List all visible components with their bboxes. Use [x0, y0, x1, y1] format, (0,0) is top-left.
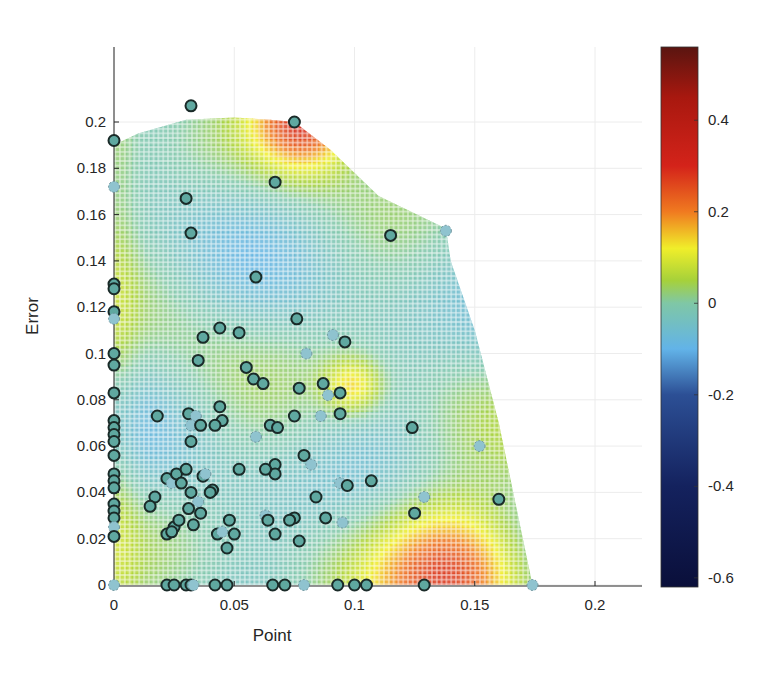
chart-figure: 00.050.10.150.200.020.040.060.080.10.120… — [0, 0, 773, 676]
colorbar-bar — [661, 47, 698, 587]
data-point — [440, 225, 451, 236]
data-point — [234, 327, 245, 338]
data-point — [262, 515, 273, 526]
data-point — [527, 580, 538, 591]
data-point — [210, 580, 221, 591]
data-point — [109, 387, 120, 398]
data-point — [291, 313, 302, 324]
data-point — [186, 436, 197, 447]
data-point — [361, 580, 372, 591]
data-point — [337, 517, 348, 528]
data-point — [241, 362, 252, 373]
data-point — [294, 536, 305, 547]
data-point — [173, 515, 184, 526]
data-point — [250, 431, 261, 442]
colorbar-tick-label: -0.4 — [708, 477, 734, 494]
x-tick-label: 0.1 — [344, 596, 365, 613]
colorbar-tick-label: 0 — [708, 294, 716, 311]
data-point — [152, 411, 163, 422]
data-point — [224, 515, 235, 526]
data-point — [250, 272, 261, 283]
data-point — [222, 543, 233, 554]
data-point — [186, 487, 197, 498]
data-point — [260, 464, 271, 475]
colorbar: 0.40.20-0.2-0.4-0.6 — [661, 47, 734, 587]
data-point — [109, 135, 120, 146]
data-point — [214, 401, 225, 412]
data-point — [169, 580, 180, 591]
data-point — [289, 117, 300, 128]
colorbar-tick-label: -0.6 — [708, 569, 734, 586]
data-point — [299, 450, 310, 461]
y-tick-label: 0 — [98, 576, 106, 593]
data-point — [193, 496, 204, 507]
data-point — [109, 482, 120, 493]
data-point — [339, 336, 350, 347]
colorbar-tick-label: 0.4 — [708, 111, 729, 128]
colorbar-ticks: 0.40.20-0.2-0.4-0.6 — [694, 111, 734, 586]
data-point — [200, 468, 211, 479]
data-point — [407, 422, 418, 433]
data-point — [195, 420, 206, 431]
data-point — [294, 383, 305, 394]
y-tick-label: 0.2 — [85, 113, 106, 130]
y-tick-label: 0.06 — [77, 437, 106, 454]
data-point — [318, 378, 329, 389]
plot-area: 00.050.10.150.200.020.040.060.080.10.120… — [77, 47, 642, 613]
data-point — [366, 475, 377, 486]
data-point — [258, 378, 269, 389]
data-point — [183, 503, 194, 514]
data-point — [311, 492, 322, 503]
data-point — [214, 323, 225, 334]
data-point — [267, 580, 278, 591]
data-point — [270, 529, 281, 540]
data-point — [327, 330, 338, 341]
x-axis-label: Point — [253, 626, 292, 645]
data-point — [109, 580, 120, 591]
y-axis-label: Error — [23, 297, 42, 335]
y-tick-label: 0.02 — [77, 530, 106, 547]
data-point — [198, 332, 209, 343]
data-point — [181, 193, 192, 204]
y-tick-label: 0.14 — [77, 252, 106, 269]
y-tick-label: 0.1 — [85, 345, 106, 362]
data-point — [299, 580, 310, 591]
data-point — [109, 450, 120, 461]
data-point — [210, 420, 221, 431]
x-tick-label: 0.2 — [585, 596, 606, 613]
data-point — [419, 580, 430, 591]
data-point — [272, 422, 283, 433]
data-point — [186, 100, 197, 111]
data-point — [109, 313, 120, 324]
data-point — [349, 580, 360, 591]
data-point — [306, 459, 317, 470]
data-point — [166, 526, 177, 537]
data-point — [284, 515, 295, 526]
data-point — [385, 230, 396, 241]
data-point — [222, 580, 233, 591]
x-tick-label: 0.05 — [220, 596, 249, 613]
data-point — [109, 283, 120, 294]
y-tick-label: 0.18 — [77, 159, 106, 176]
data-point — [320, 512, 331, 523]
y-tick-label: 0.16 — [77, 206, 106, 223]
data-point — [109, 360, 120, 371]
data-point — [342, 480, 353, 491]
data-point — [195, 508, 206, 519]
data-point — [181, 464, 192, 475]
data-point — [186, 228, 197, 239]
data-point — [419, 492, 430, 503]
y-tick-label: 0.04 — [77, 483, 106, 500]
data-point — [335, 387, 346, 398]
data-point — [323, 390, 334, 401]
colorbar-tick-label: 0.2 — [708, 203, 729, 220]
y-tick-label: 0.12 — [77, 298, 106, 315]
data-point — [301, 348, 312, 359]
data-point — [493, 494, 504, 505]
data-point — [315, 411, 326, 422]
data-point — [217, 526, 228, 537]
data-point — [234, 464, 245, 475]
data-point — [176, 478, 187, 489]
data-point — [409, 508, 420, 519]
data-point — [289, 411, 300, 422]
